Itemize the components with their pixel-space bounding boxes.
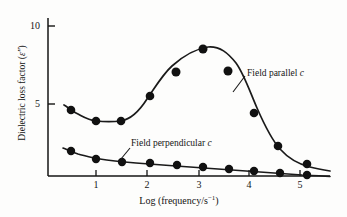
x-axis-title: Log (frequency/s−1)	[48, 194, 310, 206]
annotation-field-perpendicular-c: Field perpendicular c	[131, 138, 212, 148]
data-point	[146, 92, 155, 101]
y-axis-title-symbol: ε″	[17, 48, 27, 56]
annotation-field-parallel-c: Field parallel c	[247, 68, 304, 78]
leader-line-parallel	[233, 76, 245, 92]
y-axis-title: Dielectric loss factor (ε″)	[17, 13, 27, 173]
x-tick-label-3: 3	[189, 179, 209, 190]
x-tick-label-4: 4	[239, 179, 259, 190]
data-point	[67, 147, 75, 155]
data-point	[172, 68, 181, 77]
data-point	[250, 167, 258, 175]
series-line-field-perpendicular-c	[63, 148, 330, 177]
annotation-parallel-text: Field parallel	[247, 68, 300, 78]
x-axis-title-text: Log (frequency/s	[139, 195, 208, 206]
data-point	[146, 159, 154, 167]
data-point	[303, 160, 312, 169]
leader-line-perpendicular	[121, 148, 130, 159]
x-tick-label-5: 5	[290, 179, 310, 190]
annotation-parallel-symbol: c	[300, 68, 304, 78]
data-point	[117, 117, 126, 126]
data-point	[92, 155, 100, 163]
x-axis-title-tail: )	[215, 195, 218, 206]
data-point	[303, 171, 311, 179]
x-tick-label-1: 1	[86, 179, 106, 190]
annotation-perpendicular-symbol: c	[208, 138, 212, 148]
data-point	[199, 45, 208, 54]
data-point	[199, 163, 207, 171]
y-axis-title-tail: )	[17, 45, 27, 48]
data-point	[276, 169, 284, 177]
annotation-perpendicular-text: Field perpendicular	[131, 138, 208, 148]
dielectric-loss-chart: 10 5 1 2 3 4 5 Dielectric loss factor (ε…	[0, 0, 347, 217]
data-point	[225, 165, 233, 173]
series-line-field-parallel-c	[64, 47, 330, 171]
data-point	[92, 117, 101, 126]
data-point	[118, 158, 126, 166]
data-point	[173, 161, 181, 169]
data-point	[67, 106, 76, 115]
data-point	[250, 109, 259, 118]
y-axis-title-text: Dielectric loss factor (	[17, 56, 27, 141]
x-tick-label-2: 2	[137, 179, 157, 190]
data-point	[224, 67, 233, 76]
data-point	[274, 142, 283, 151]
